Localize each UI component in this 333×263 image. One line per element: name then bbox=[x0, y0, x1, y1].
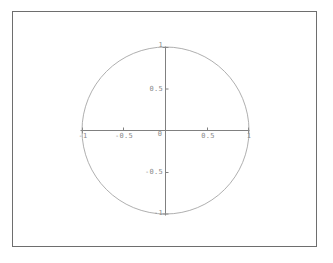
x-tick-label-neg-half: -0.5 bbox=[111, 132, 137, 140]
x-tick-label-origin: 0 bbox=[155, 130, 165, 138]
plot-frame-border bbox=[12, 11, 317, 247]
y-tick-label-neg-half: -0.5 bbox=[134, 168, 163, 176]
x-tick-label-pos-one: 1 bbox=[243, 132, 255, 140]
y-tick-label-neg-one: -1 bbox=[150, 209, 163, 217]
y-tick-label-pos-one: 1 bbox=[150, 41, 163, 49]
plot-figure: -1 -0.5 0 0.5 1 1 0.5 -0.5 -1 bbox=[0, 0, 333, 263]
x-tick-label-neg-one: -1 bbox=[76, 132, 90, 140]
y-tick-label-pos-half: 0.5 bbox=[139, 85, 163, 93]
x-tick-label-pos-half: 0.5 bbox=[196, 132, 220, 140]
